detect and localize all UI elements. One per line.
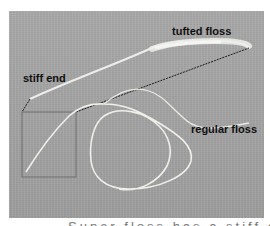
floss-stiff-segment [30, 41, 249, 99]
label-regular-floss: regular floss [191, 123, 257, 135]
zoom-inset-box [22, 112, 76, 177]
figure-caption-partial: Super floss has a stiff end [68, 220, 270, 226]
connector-line-left [22, 99, 30, 112]
label-tufted-floss: tufted floss [172, 25, 231, 37]
connector-line-right [76, 48, 249, 112]
label-stiff-end: stiff end [23, 72, 66, 84]
floss-photo: tufted floss stiff end regular floss [9, 11, 264, 218]
caption-strip: Super floss has a stiff end [0, 219, 270, 226]
floss-drawing [9, 11, 264, 218]
